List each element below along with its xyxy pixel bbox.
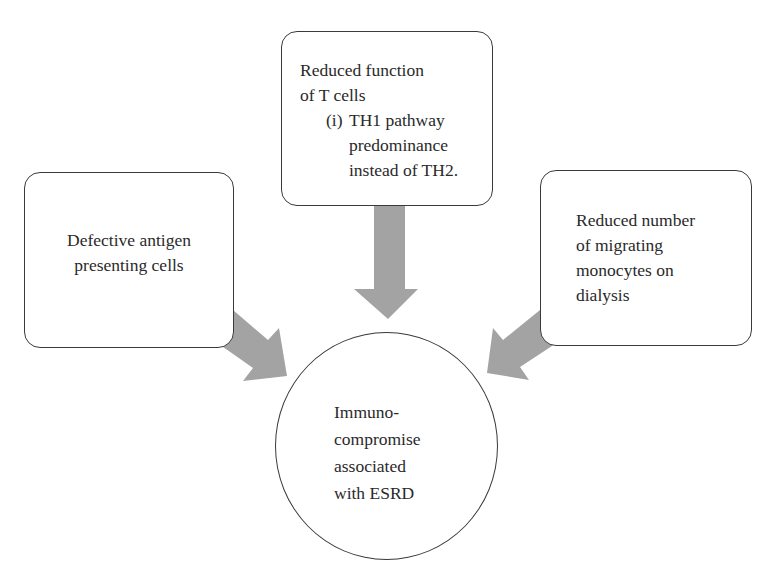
list-item-text: TH1 pathway predominance instead of TH2. — [349, 108, 458, 183]
node-reduced-monocytes: Reduced number of migrating monocytes on… — [540, 170, 752, 346]
node-text-line: TH1 pathway — [349, 108, 458, 133]
node-text-line: Immuno- — [334, 399, 421, 426]
node-text-line: instead of TH2. — [349, 158, 458, 183]
node-defective-apc: Defective antigen presenting cells — [24, 172, 234, 348]
node-text-line: Reduced number — [576, 208, 741, 233]
node-text-line: Defective antigen — [67, 228, 191, 253]
node-text-line: predominance — [349, 133, 458, 158]
node-text-line: Reduced function — [300, 58, 482, 83]
node-immunocompromise-esrd: Immuno- compromise associated with ESRD — [275, 332, 498, 560]
node-text-line: associated — [334, 453, 421, 480]
node-text: Defective antigen presenting cells — [67, 228, 191, 278]
node-text-line: monocytes on — [576, 258, 741, 283]
node-text: Immuno- compromise associated with ESRD — [334, 399, 421, 507]
list-marker: (i) — [326, 108, 349, 183]
node-text-line: of migrating — [576, 233, 741, 258]
node-text-line: compromise — [334, 426, 421, 453]
sub-list-item: (i) TH1 pathway predominance instead of … — [326, 108, 482, 183]
node-text-line: presenting cells — [67, 253, 191, 278]
node-text-line: with ESRD — [334, 480, 421, 507]
arrow-down-icon — [354, 205, 418, 319]
node-text-line: of T cells — [300, 83, 482, 108]
node-reduced-t-cell-function: Reduced function of T cells (i) TH1 path… — [281, 31, 493, 206]
node-text-line: dialysis — [576, 283, 741, 308]
